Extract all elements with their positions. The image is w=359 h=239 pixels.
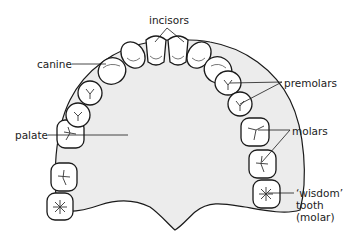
tooth-right-incisor-1: [168, 36, 188, 65]
label-wisdom-line2: tooth: [296, 199, 324, 211]
label-wisdom-line3: (molar): [296, 211, 335, 223]
tooth-right-wisdom-molar: [253, 180, 280, 208]
label-molars: molars: [292, 125, 328, 137]
label-premolars: premolars: [284, 77, 337, 89]
tooth-right-molar-1: [241, 118, 269, 146]
label-palate: palate: [15, 129, 48, 141]
tooth-left-premolar-1: [78, 81, 102, 105]
tooth-left-molar-2: [51, 163, 77, 191]
label-canine: canine: [37, 58, 72, 70]
tooth-right-molar-2: [249, 150, 276, 178]
dental-arch-diagram: incisors canine premolars palate molars …: [0, 0, 359, 239]
tooth-left-wisdom-molar: [47, 193, 73, 220]
label-incisors: incisors: [149, 14, 189, 26]
label-wisdom-line1: ‘wisdom’: [296, 187, 343, 199]
tooth-left-premolar-2: [66, 103, 90, 127]
